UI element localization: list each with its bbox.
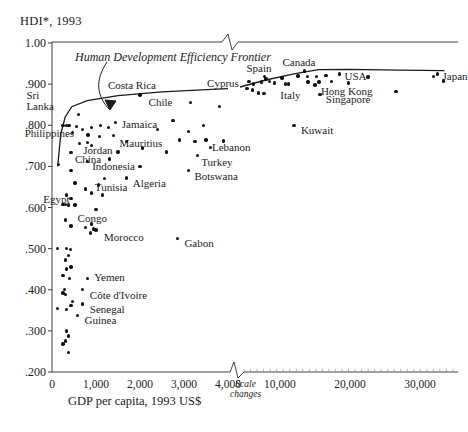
data-point-kuwait: [292, 124, 295, 127]
data-point: [69, 169, 72, 172]
data-point: [116, 150, 119, 153]
data-point: [84, 226, 87, 229]
point-label-tunisia: Tunisia: [95, 182, 128, 193]
point-label-canada: Canada: [282, 57, 315, 68]
point-label-costa-rica: Costa Rica: [108, 80, 156, 91]
data-point: [94, 208, 97, 211]
data-point: [252, 82, 255, 85]
point-label-yemen: Yemen: [94, 272, 125, 283]
point-label-mauritius: Mauritius: [120, 138, 163, 149]
frontier-annotation-label: Human Development Efficiency Frontier: [75, 50, 271, 65]
point-label-algeria: Algeria: [133, 178, 166, 189]
data-point: [317, 80, 320, 83]
data-point: [64, 258, 67, 261]
x-axis-tick-label: 1,000: [71, 378, 121, 390]
data-point: [61, 274, 64, 277]
data-point: [394, 90, 397, 93]
y-axis-tick-label: .500: [6, 242, 46, 257]
point-label-morocco: Morocco: [104, 232, 144, 243]
y-axis-tick-label: .600: [6, 201, 46, 216]
data-point: [171, 119, 174, 122]
data-point: [138, 165, 141, 168]
data-point: [84, 187, 87, 190]
data-point: [315, 75, 318, 78]
data-point: [324, 74, 327, 77]
x-axis-tick-label: 20,000: [322, 378, 378, 390]
data-point: [366, 75, 369, 78]
x-axis-label: GDP per capita, 1993 US$: [68, 394, 201, 409]
point-label-singapore: Singapore: [326, 94, 371, 105]
data-point-yemen: [86, 277, 89, 280]
data-point-mauritius: [178, 138, 181, 141]
data-point: [61, 342, 64, 345]
point-label-usa: USA: [344, 71, 366, 82]
point-label-japan: Japan: [442, 71, 467, 82]
y-axis-tick-label: .400: [6, 283, 46, 298]
point-label-chile: Chile: [149, 97, 173, 108]
data-point: [69, 304, 72, 307]
data-point: [69, 224, 72, 227]
point-label-botswana: Botswana: [194, 171, 237, 182]
y-axis-tick-label: .700: [6, 159, 46, 174]
point-label-c-te-d-ivoire: Côte d'Ivoire: [90, 290, 147, 301]
data-point-japan: [436, 72, 439, 75]
x-axis-tick-label: 0: [27, 378, 77, 390]
x-axis-tick-label: 3,000: [159, 378, 209, 390]
data-point: [67, 334, 70, 337]
point-label-indonesia: Indonesia: [92, 161, 135, 172]
data-point: [268, 80, 271, 83]
data-point-italy: [287, 82, 290, 85]
data-point-turkey: [196, 154, 199, 157]
data-point-usa: [338, 72, 341, 75]
data-point-costa-rica: [138, 93, 141, 96]
point-label-congo: Congo: [78, 213, 107, 224]
data-point: [65, 267, 68, 270]
data-point: [69, 197, 72, 200]
data-point: [65, 329, 68, 332]
point-label-kuwait: Kuwait: [301, 125, 333, 136]
data-point: [280, 76, 283, 79]
data-point: [257, 91, 260, 94]
point-label-jamaica: Jamaica: [122, 119, 157, 130]
data-point: [99, 124, 102, 127]
point-label-lebanon: Lebanon: [212, 142, 250, 153]
data-point: [262, 92, 265, 95]
data-point: [245, 87, 248, 90]
data-point-lebanon: [204, 138, 207, 141]
data-point: [73, 203, 76, 206]
data-point: [69, 265, 72, 268]
point-label-gabon: Gabon: [184, 238, 213, 249]
data-point-morocco: [94, 228, 97, 231]
data-point: [67, 124, 70, 127]
point-label-italy: Italy: [280, 90, 300, 101]
point-label-sri-lanka: SriLanka: [26, 90, 53, 112]
data-point-canada: [303, 69, 306, 72]
scale-break-note: Scale changes: [230, 379, 261, 399]
y-axis-tick-label: 1.00: [6, 36, 46, 51]
data-point: [78, 142, 81, 145]
point-label-turkey: Turkey: [201, 157, 232, 168]
data-point: [64, 218, 67, 221]
x-axis-tick-label: 30,000: [392, 378, 448, 390]
scale-break-line2: changes: [230, 389, 261, 399]
point-label-philippines: Philippines: [25, 128, 75, 139]
data-point: [86, 133, 89, 136]
point-label-egypt: Egypt: [43, 194, 69, 205]
data-point: [165, 150, 168, 153]
data-point: [107, 126, 110, 129]
data-point-cyprus: [247, 80, 250, 83]
data-point: [251, 88, 254, 91]
data-point: [90, 191, 93, 194]
point-label-cyprus: Cyprus: [207, 78, 239, 89]
data-point: [306, 80, 309, 83]
data-point-gabon: [176, 237, 179, 240]
point-label-guinea: Guinea: [85, 315, 117, 326]
y-axis-tick-label: .300: [6, 324, 46, 339]
data-point: [73, 181, 76, 184]
data-point: [296, 74, 299, 77]
scale-break-line1: Scale: [235, 379, 256, 389]
data-point-hong-kong: [313, 83, 316, 86]
data-point: [273, 81, 276, 84]
x-axis-tick-label: 2,000: [115, 378, 165, 390]
